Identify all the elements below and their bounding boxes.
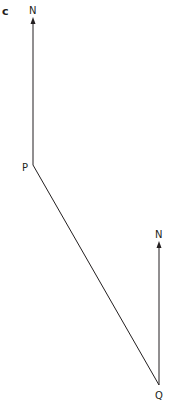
line-pq bbox=[33, 165, 159, 385]
part-label: c bbox=[2, 5, 9, 18]
bearing-diagram: c N P N Q bbox=[0, 0, 173, 403]
north-label-q: N bbox=[155, 229, 162, 240]
point-label-q: Q bbox=[155, 390, 163, 401]
point-label-p: P bbox=[22, 162, 28, 173]
north-label-p: N bbox=[29, 5, 36, 16]
